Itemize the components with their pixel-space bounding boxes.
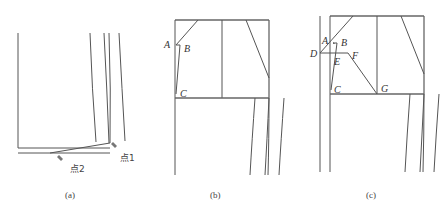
label-E: E (333, 56, 340, 67)
label-B: B (184, 43, 190, 54)
curve-1 (250, 98, 255, 175)
panel-b: A B C (b) (163, 20, 284, 200)
arrow-point1-icon (111, 142, 117, 148)
curve-4 (434, 94, 439, 172)
label-A: A (321, 35, 329, 46)
pattern-diagram: 点1 点2 (a) A B C (b) (0, 0, 445, 212)
diag-right (246, 20, 269, 78)
label-B: B (341, 37, 347, 48)
curve-1 (405, 94, 410, 172)
label-point2: 点2 (70, 164, 85, 174)
caption-b: (b) (210, 190, 221, 200)
label-D: D (309, 48, 318, 59)
curve-1 (90, 33, 96, 142)
label-C: C (180, 88, 187, 99)
panel-c: A B D E F C G (c) (309, 16, 439, 200)
caption-c: (c) (366, 190, 376, 200)
label-F: F (351, 50, 359, 61)
curve-4 (119, 33, 125, 141)
label-A: A (163, 39, 171, 50)
curve-3 (109, 33, 110, 143)
label-C: C (334, 84, 341, 95)
curve-2 (104, 33, 109, 143)
segment-B-C (176, 45, 180, 94)
label-point1: 点1 (120, 153, 135, 163)
panel-a: 点1 点2 (a) (18, 33, 135, 200)
arrow-point2-icon (57, 155, 63, 161)
caption-a: (a) (65, 190, 75, 200)
label-G: G (381, 83, 388, 94)
curve-4 (279, 98, 284, 175)
diag-right (401, 16, 424, 74)
diag-top-A (176, 20, 198, 45)
